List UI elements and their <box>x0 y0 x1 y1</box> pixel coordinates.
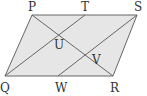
label-q: Q <box>0 81 10 95</box>
label-r: R <box>110 81 120 95</box>
label-t: T <box>81 0 89 14</box>
label-p: P <box>28 0 36 14</box>
parallelogram-pqrs <box>5 15 137 76</box>
label-w: W <box>55 81 68 95</box>
label-u: U <box>54 38 64 52</box>
label-s: S <box>134 0 142 14</box>
label-v: V <box>91 53 101 67</box>
geometry-diagram: P T S Q W R U V <box>0 0 147 96</box>
